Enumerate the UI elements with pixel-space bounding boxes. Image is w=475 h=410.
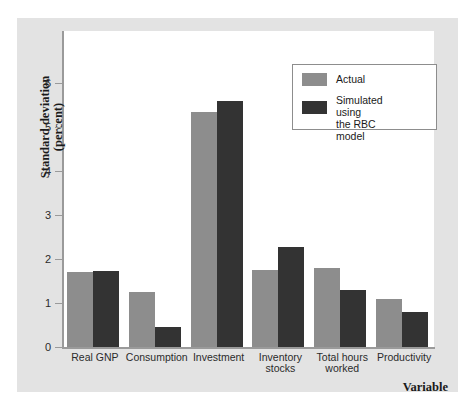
bar-simulated-5 [340,290,366,347]
legend-label-actual: Actual [336,73,365,85]
y-tick-1 [55,303,62,304]
y-tick-0 [55,347,62,348]
bar-actual-1 [67,272,93,347]
y-tick-label-0: 0 [29,342,51,352]
legend-label-simulated: Simulated using the RBC model [336,94,383,142]
bar-actual-4 [252,270,278,347]
y-tick-3 [55,215,62,216]
y-tick-6 [55,83,62,84]
x-axis-title: Variable [403,380,448,395]
bar-actual-2 [129,292,155,347]
y-tick-label-2: 2 [29,254,51,264]
y-tick-label-5: 5 [29,122,51,132]
bar-actual-5 [314,268,340,347]
bar-simulated-3 [217,101,243,347]
y-tick-4 [55,171,62,172]
bar-simulated-6 [402,312,428,347]
bar-actual-6 [376,299,402,347]
figure-container: Standard deviation (percent) 0 1 2 3 4 5… [17,18,458,392]
y-tick-label-6: 6 [29,78,51,88]
y-tick-2 [55,259,62,260]
legend: Actual Simulated using the RBC model [292,64,437,130]
y-tick-label-4: 4 [29,166,51,176]
legend-swatch-actual [302,73,327,86]
bar-simulated-4 [278,247,304,347]
bar-simulated-1 [93,271,119,347]
bar-simulated-2 [155,327,181,347]
legend-swatch-simulated [302,101,327,114]
bar-actual-3 [191,112,217,347]
y-tick-5 [55,127,62,128]
x-axis-label-6: Productivity [367,352,441,363]
y-tick-label-3: 3 [29,210,51,220]
y-tick-label-1: 1 [29,298,51,308]
x-axis-line [62,347,435,349]
